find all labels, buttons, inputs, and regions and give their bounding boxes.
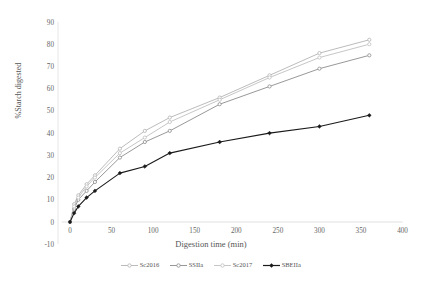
- x-axis-tick-labels: 050100150200250300350400: [68, 227, 408, 235]
- legend-marker-sbeiia-icon: [263, 262, 280, 269]
- legend-label: SSIIa: [189, 262, 203, 269]
- svg-text:250: 250: [272, 227, 283, 235]
- svg-text:300: 300: [314, 227, 325, 235]
- svg-text:90: 90: [47, 19, 55, 27]
- svg-text:0: 0: [68, 227, 72, 235]
- legend-item-ssiia[interactable]: SSIIa: [170, 262, 203, 269]
- svg-text:0: 0: [50, 219, 54, 227]
- svg-text:30: 30: [47, 152, 55, 160]
- legend-item-sc2017[interactable]: Sc2017: [214, 262, 252, 269]
- legend-marker-ssiia-icon: [170, 262, 187, 269]
- legend-marker-sc2017-icon: [214, 262, 231, 269]
- svg-text:400: 400: [397, 227, 408, 235]
- x-axis-title: Digestion time (min): [0, 239, 422, 249]
- svg-text:350: 350: [356, 227, 367, 235]
- svg-text:50: 50: [47, 107, 55, 115]
- axis-lines: [58, 22, 403, 244]
- svg-text:10: 10: [47, 196, 55, 204]
- chart-legend: Sc2016SSIIaSc2017SBEIIa: [0, 262, 422, 269]
- legend-label: Sc2016: [140, 262, 160, 269]
- svg-text:100: 100: [148, 227, 159, 235]
- legend-marker-sc2016-icon: [121, 262, 138, 269]
- legend-label: SBEIIa: [282, 262, 301, 269]
- y-axis-tick-labels: -100102030405060708090: [44, 19, 54, 249]
- svg-text:200: 200: [231, 227, 242, 235]
- svg-text:60: 60: [47, 85, 55, 93]
- y-axis-title: %Starch digested: [14, 43, 23, 139]
- svg-text:150: 150: [189, 227, 200, 235]
- legend-item-sbeiia[interactable]: SBEIIa: [263, 262, 301, 269]
- starch-digestion-chart: -100102030405060708090 05010015020025030…: [0, 0, 422, 290]
- legend-label: Sc2017: [233, 262, 253, 269]
- svg-text:40: 40: [47, 130, 55, 138]
- svg-text:20: 20: [47, 174, 55, 182]
- svg-text:70: 70: [47, 63, 55, 71]
- svg-text:50: 50: [108, 227, 116, 235]
- svg-text:80: 80: [47, 41, 55, 49]
- legend-item-sc2016[interactable]: Sc2016: [121, 262, 159, 269]
- data-series-layer: [68, 38, 371, 224]
